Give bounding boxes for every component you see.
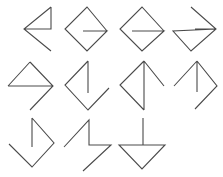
glyph-grid [0,0,223,177]
canvas-background [0,0,223,177]
glyph-canvas [0,0,223,177]
